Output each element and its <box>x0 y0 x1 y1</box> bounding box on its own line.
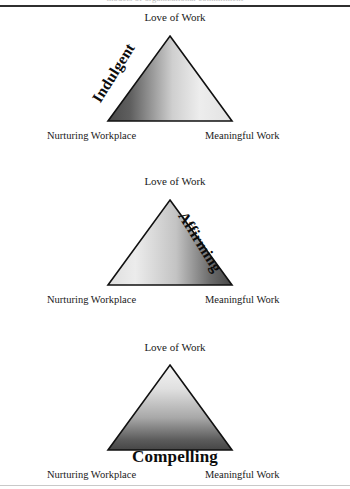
bottom-right-label-compelling: Meaningful Work <box>205 468 280 481</box>
triangle-shape-compelling <box>108 365 232 450</box>
bottom-right-label-affirming: Meaningful Work <box>205 293 280 306</box>
apex-label-indulgent: Love of Work <box>0 11 350 24</box>
bottom-left-label-compelling: Nurturing Workplace <box>47 468 136 481</box>
triangle-affirming-svg <box>0 197 350 289</box>
triangle-indulgent-svg <box>0 33 350 125</box>
apex-label-compelling: Love of Work <box>0 341 350 354</box>
edge-label-compelling: Compelling <box>0 447 350 467</box>
diagram-affirming: Love of Work Affirming Nurturing Workpla… <box>0 164 350 329</box>
apex-label-affirming: Love of Work <box>0 175 350 188</box>
triangle-affirming <box>0 197 350 289</box>
bottom-left-label-indulgent: Nurturing Workplace <box>47 129 136 142</box>
triangle-indulgent <box>0 33 350 125</box>
bottom-left-label-affirming: Nurturing Workplace <box>47 293 136 306</box>
page-canvas: models of organizational commitment Love… <box>0 0 350 489</box>
bottom-right-label-indulgent: Meaningful Work <box>205 129 280 142</box>
diagram-compelling: Love of Work Compelling Nurturing Workpl… <box>0 328 350 485</box>
triangle-compelling <box>0 362 350 454</box>
bottom-horizontal-rule <box>0 485 350 486</box>
diagram-indulgent: Love of Work Indulgent Nurturing Workpla… <box>0 0 350 165</box>
triangle-compelling-svg <box>0 362 350 454</box>
